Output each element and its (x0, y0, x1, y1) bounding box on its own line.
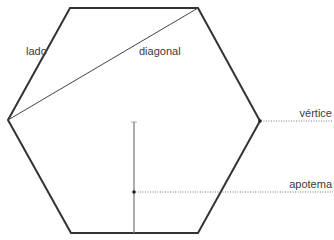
label-side: lado (26, 45, 47, 57)
label-vertex: vértice (300, 107, 332, 119)
label-diagonal: diagonal (139, 45, 181, 57)
hexagon-diagram: lado diagonal vértice apotema (0, 0, 334, 240)
diagonal-line (8, 8, 198, 120)
label-apothem: apotema (289, 178, 333, 190)
